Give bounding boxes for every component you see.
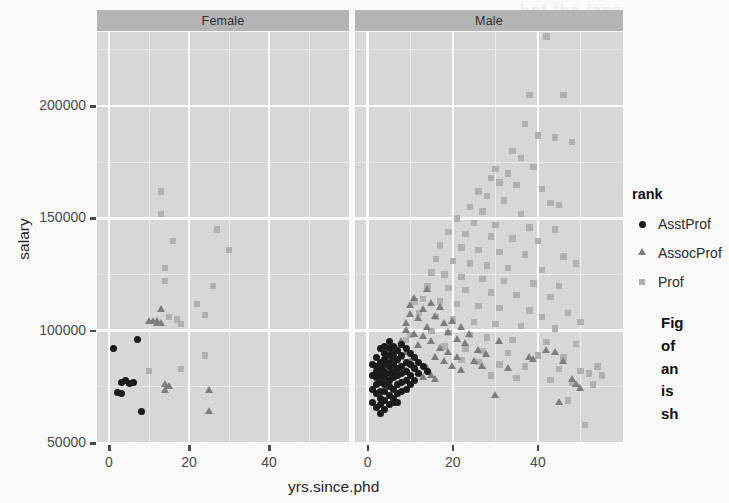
data-point-assocprof bbox=[419, 305, 427, 312]
x-axis-title: yrs.since.phd bbox=[288, 478, 379, 496]
data-point-prof bbox=[501, 197, 507, 203]
data-point-asstprof bbox=[424, 368, 431, 375]
data-point-prof bbox=[467, 204, 473, 210]
caption-line: sh bbox=[661, 403, 729, 426]
data-point-prof bbox=[488, 372, 494, 378]
data-point-assocprof bbox=[444, 348, 452, 355]
grid-major-horizontal bbox=[355, 105, 623, 108]
data-point-prof bbox=[535, 238, 541, 244]
x-axis-tick-label: 20 bbox=[433, 454, 473, 470]
data-point-assocprof bbox=[427, 299, 435, 306]
data-point-assocprof bbox=[453, 353, 461, 360]
data-point-prof bbox=[513, 292, 519, 298]
data-point-assocprof bbox=[431, 312, 439, 319]
grid-minor-vertical bbox=[229, 32, 230, 443]
data-point-prof bbox=[539, 267, 545, 273]
data-point-assocprof bbox=[427, 337, 435, 344]
data-point-prof bbox=[226, 247, 232, 253]
data-point-prof bbox=[577, 368, 583, 374]
data-point-prof bbox=[488, 289, 494, 295]
legend-label: Prof bbox=[658, 274, 684, 290]
data-point-assocprof bbox=[440, 357, 448, 364]
legend-key-square-icon bbox=[632, 272, 652, 292]
x-axis-tick-label: 40 bbox=[249, 454, 289, 470]
data-point-prof bbox=[569, 139, 575, 145]
data-point-asstprof bbox=[110, 345, 117, 352]
data-point-prof bbox=[522, 363, 528, 369]
data-point-assocprof bbox=[402, 319, 410, 326]
data-point-prof bbox=[492, 166, 498, 172]
data-point-prof bbox=[530, 164, 536, 170]
grid-minor-horizontal bbox=[97, 162, 349, 163]
x-axis-tick-mark bbox=[108, 445, 111, 451]
data-point-assocprof bbox=[165, 382, 173, 389]
book-caption: Figofanissh bbox=[661, 312, 729, 452]
data-point-prof bbox=[484, 262, 490, 268]
data-point-prof bbox=[178, 321, 184, 327]
data-point-prof bbox=[462, 287, 468, 293]
data-point-asstprof bbox=[138, 408, 145, 415]
data-point-prof bbox=[526, 92, 532, 98]
data-point-prof bbox=[505, 170, 511, 176]
grid-major-horizontal bbox=[97, 217, 349, 220]
data-point-prof bbox=[522, 251, 528, 257]
grid-minor-horizontal bbox=[97, 274, 349, 275]
data-point-assocprof bbox=[402, 326, 410, 333]
grid-major-horizontal bbox=[97, 105, 349, 108]
data-point-prof bbox=[492, 222, 498, 228]
data-point-prof bbox=[210, 283, 216, 289]
data-point-prof bbox=[458, 244, 464, 250]
data-point-prof bbox=[556, 283, 562, 289]
y-axis-tick-mark bbox=[90, 442, 96, 445]
data-point-prof bbox=[505, 350, 511, 356]
figure-scatter-salary: Female Male 50000100000150000200000 0204… bbox=[0, 0, 729, 503]
grid-major-vertical bbox=[452, 32, 455, 443]
data-point-prof bbox=[560, 253, 566, 259]
legend-rank: rank AsstProfAssocProfProf bbox=[632, 186, 729, 301]
data-point-prof bbox=[565, 310, 571, 316]
data-point-prof bbox=[462, 345, 468, 351]
x-axis-tick-mark bbox=[188, 445, 191, 451]
grid-minor-horizontal bbox=[97, 386, 349, 387]
data-point-prof bbox=[509, 337, 515, 343]
data-point-prof bbox=[488, 175, 494, 181]
data-point-assocprof bbox=[559, 357, 567, 364]
data-point-assocprof bbox=[423, 323, 431, 330]
grid-major-horizontal bbox=[355, 329, 623, 332]
grid-minor-horizontal bbox=[355, 162, 623, 163]
data-point-prof bbox=[420, 296, 426, 302]
data-point-assocprof bbox=[495, 337, 503, 344]
data-point-assocprof bbox=[157, 305, 165, 312]
data-point-prof bbox=[454, 215, 460, 221]
data-point-prof bbox=[214, 226, 220, 232]
legend-title: rank bbox=[632, 186, 663, 202]
data-point-prof bbox=[445, 285, 451, 291]
data-point-prof bbox=[577, 319, 583, 325]
data-point-assocprof bbox=[529, 355, 537, 362]
data-point-assocprof bbox=[157, 319, 165, 326]
caption-line: Fig bbox=[661, 312, 729, 335]
legend-label: AsstProf bbox=[658, 216, 711, 232]
x-axis-tick-mark bbox=[537, 445, 540, 451]
circle-icon bbox=[639, 221, 646, 228]
data-point-assocprof bbox=[504, 364, 512, 371]
x-axis-tick-mark bbox=[452, 445, 455, 451]
data-point-assocprof bbox=[440, 319, 448, 326]
legend-item-asstprof[interactable]: AsstProf bbox=[632, 214, 711, 234]
legend-item-assocprof[interactable]: AssocProf bbox=[632, 243, 722, 263]
data-point-prof bbox=[492, 321, 498, 327]
data-point-assocprof bbox=[457, 323, 465, 330]
data-point-prof bbox=[475, 247, 481, 253]
data-point-asstprof bbox=[130, 379, 137, 386]
data-point-prof bbox=[454, 301, 460, 307]
legend-key-triangle-icon bbox=[632, 243, 652, 263]
data-point-prof bbox=[475, 303, 481, 309]
data-point-asstprof bbox=[373, 368, 380, 375]
data-point-prof bbox=[441, 271, 447, 277]
grid-major-vertical bbox=[366, 32, 369, 443]
legend-item-prof[interactable]: Prof bbox=[632, 272, 684, 292]
x-axis-tick-label: 0 bbox=[348, 454, 388, 470]
data-point-prof bbox=[547, 294, 553, 300]
data-point-prof bbox=[513, 182, 519, 188]
data-point-prof bbox=[552, 226, 558, 232]
